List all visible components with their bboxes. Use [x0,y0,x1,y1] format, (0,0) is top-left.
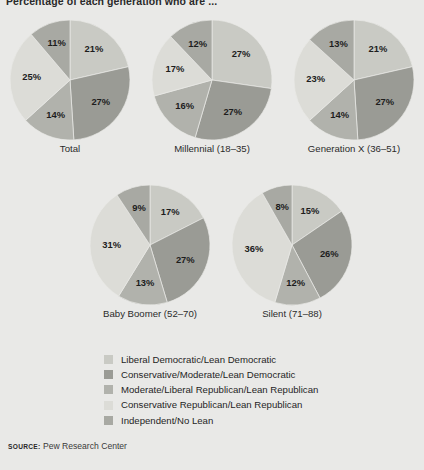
pie-caption: Total [10,143,130,154]
pie-slice-value-label: 16% [175,100,194,111]
source-label: SOURCE: [8,443,41,450]
legend-swatch-icon [104,401,113,410]
pie-slice-value-label: 27% [176,254,195,265]
pie-slice-value-label: 9% [132,202,146,213]
pie-caption: Generation X (36–51) [294,143,414,154]
legend-item-label: Independent/No Lean [121,416,213,426]
pie-graphic: 17%27%13%31%9% [90,185,210,305]
pew-pie-chart-figure: Percentage of each generation who are ..… [0,0,424,470]
pie-chart-2: 27%27%16%17%12%Millennial (18–35) [152,20,272,157]
pie-slice-value-label: 17% [161,206,180,217]
source-text: Pew Research Center [43,441,127,451]
legend-swatch-icon [104,416,113,425]
pie-slice-value-label: 15% [301,205,320,216]
legend-swatch-icon [104,355,113,364]
pie-slice-value-label: 36% [244,243,263,254]
pie-slice-value-label: 21% [85,43,104,54]
pie-graphic: 21%27%14%23%13% [294,20,414,140]
pie-slice-value-label: 17% [166,63,185,74]
chart-title: Percentage of each generation who are ..… [6,0,217,7]
pie-slice-value-label: 23% [306,73,325,84]
pie-slice-value-label: 14% [330,109,349,120]
pie-slice-value-label: 27% [375,96,394,107]
pie-graphic: 27%27%16%17%12% [152,20,272,140]
pie-slice-value-label: 27% [223,106,242,117]
legend-swatch-icon [104,385,113,394]
pie-slice-value-label: 8% [275,201,289,212]
pie-graphic: 21%27%14%25%11% [10,20,130,140]
chart-legend: Liberal Democratic/Lean DemocraticConser… [104,352,404,428]
legend-item: Independent/No Lean [104,413,404,428]
pie-slice-value-label: 25% [22,71,41,82]
pie-slice-value-label: 27% [232,48,251,59]
pie-slice-value-label: 13% [136,277,155,288]
legend-item: Conservative Republican/Lean Republican [104,398,404,413]
legend-item: Conservative/Moderate/Lean Democratic [104,367,404,382]
pie-chart-3: 21%27%14%23%13%Generation X (36–51) [294,20,414,157]
legend-swatch-icon [104,370,113,379]
source-note: SOURCE: Pew Research Center [8,441,127,451]
pie-slice-value-label: 21% [369,43,388,54]
pie-slice-value-label: 26% [320,248,339,259]
pie-slice-value-label: 27% [91,96,110,107]
pie-chart-5: 15%26%12%36%8%Silent (71–88) [232,185,352,322]
legend-item: Moderate/Liberal Republican/Lean Republi… [104,382,404,397]
pie-caption: Millennial (18–35) [152,143,272,154]
legend-item-label: Moderate/Liberal Republican/Lean Republi… [121,385,318,395]
pie-slice-value-label: 12% [286,277,305,288]
pie-caption: Baby Boomer (52–70) [90,308,210,319]
pie-slice-value-label: 31% [102,239,121,250]
pie-slice-value-label: 11% [48,37,67,48]
legend-item-label: Liberal Democratic/Lean Democratic [121,355,276,365]
pie-slice-value-label: 14% [46,109,65,120]
pie-slice-value-label: 13% [329,38,348,49]
pie-slice-value-label: 12% [188,38,207,49]
pie-chart-4: 17%27%13%31%9%Baby Boomer (52–70) [90,185,210,322]
pie-caption: Silent (71–88) [232,308,352,319]
legend-item: Liberal Democratic/Lean Democratic [104,352,404,367]
legend-item-label: Conservative Republican/Lean Republican [121,400,302,410]
pie-chart-1: 21%27%14%25%11%Total [10,20,130,157]
pie-graphic: 15%26%12%36%8% [232,185,352,305]
legend-item-label: Conservative/Moderate/Lean Democratic [121,370,295,380]
